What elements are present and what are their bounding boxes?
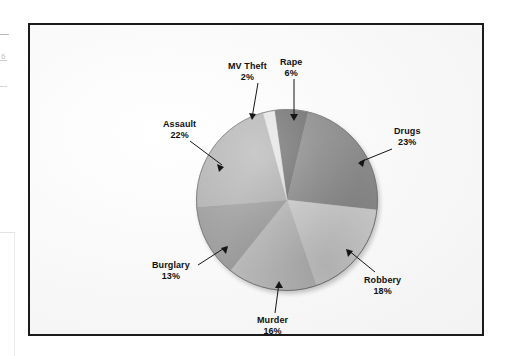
- page-margin-rule-top: [0, 34, 9, 35]
- slice-label-drugs-pct: 23%: [394, 137, 421, 148]
- slice-label-drugs-name: Drugs: [394, 126, 421, 136]
- slice-label-murder: Murder 16%: [257, 315, 288, 337]
- slice-label-robbery-name: Robbery: [364, 275, 401, 285]
- pie-chart: [196, 109, 378, 291]
- page-margin-block: [0, 232, 15, 356]
- slice-label-assault-pct: 22%: [163, 130, 196, 141]
- slice-label-burglary-pct: 13%: [152, 271, 190, 282]
- page-canvas: 6: [0, 0, 508, 356]
- slice-label-mv-theft-name: MV Theft: [228, 61, 267, 71]
- slice-label-murder-pct: 16%: [257, 326, 288, 337]
- slice-label-burglary-name: Burglary: [152, 260, 190, 270]
- slice-label-rape: Rape 6%: [280, 57, 302, 79]
- slice-label-robbery: Robbery 18%: [364, 275, 401, 297]
- slice-label-assault-name: Assault: [163, 119, 196, 129]
- slice-label-mv-theft: MV Theft 2%: [228, 61, 267, 83]
- slice-label-drugs: Drugs 23%: [394, 126, 421, 148]
- slice-label-rape-name: Rape: [280, 57, 302, 67]
- page-margin-rule-bottom: [0, 86, 7, 87]
- figure-frame: MV Theft 2% Rape 6% Drugs 23% Robbery 18…: [28, 23, 484, 336]
- slice-label-robbery-pct: 18%: [364, 286, 401, 297]
- slice-label-burglary: Burglary 13%: [152, 260, 190, 282]
- page-margin-glyph: 6: [1, 52, 5, 61]
- pie-slices: [196, 109, 378, 291]
- slice-label-murder-name: Murder: [257, 315, 288, 325]
- slice-label-rape-pct: 6%: [280, 68, 302, 79]
- slice-label-mv-theft-pct: 2%: [228, 72, 267, 83]
- slice-label-assault: Assault 22%: [163, 119, 196, 141]
